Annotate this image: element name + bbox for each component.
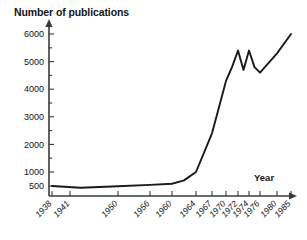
x-tick-label: 1956	[131, 198, 152, 219]
y-tick-label: 2000	[24, 140, 44, 150]
y-tick-label: 1000	[24, 167, 44, 177]
y-tick-label: 5000	[24, 57, 44, 67]
y-tick-label: 6000	[24, 29, 44, 39]
y-tick-label: 3000	[24, 112, 44, 122]
data-series-line	[52, 34, 291, 188]
x-tick-label: 1985	[272, 198, 293, 219]
x-tick-label: 1960	[153, 198, 174, 219]
x-tick-label: 1941	[51, 198, 72, 219]
y-axis-arrow-icon	[45, 19, 52, 27]
x-tick-label: 1964	[177, 198, 198, 219]
x-axis-arrow-icon	[289, 192, 297, 199]
publications-line-chart: Number of publications Year 500100020003…	[0, 0, 307, 240]
y-tick-label: 4000	[24, 84, 44, 94]
y-axis	[45, 19, 52, 196]
y-tick-label: 500	[29, 181, 44, 191]
chart-plot-area: 500100020003000400050006000 193819411950…	[0, 0, 307, 240]
x-tick-label: 1938	[33, 198, 54, 219]
x-tick-label: 1950	[99, 198, 120, 219]
